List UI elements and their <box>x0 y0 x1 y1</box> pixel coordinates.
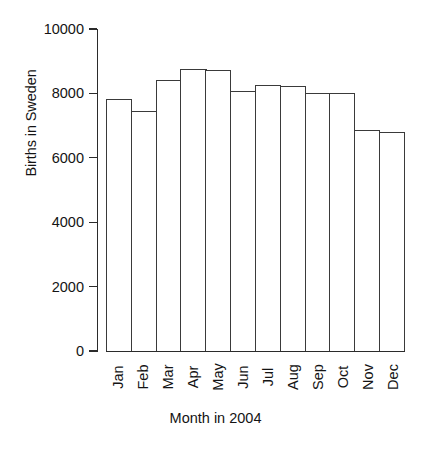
x-axis-tick-label: Jan <box>111 365 126 388</box>
x-axis-tick-cell: Mar <box>156 355 181 403</box>
y-axis-line <box>97 29 98 352</box>
x-axis-tick-cell: Jul <box>256 355 281 403</box>
y-axis-tick-label: 0 <box>24 344 84 359</box>
y-axis-tick-mark <box>89 28 97 29</box>
plot-area <box>106 20 405 352</box>
x-axis-tick-label: Oct <box>336 366 351 389</box>
bar-jun <box>230 91 256 352</box>
x-axis-tick-cell: Nov <box>355 355 380 403</box>
y-axis-tick-label: 6000 <box>24 151 84 166</box>
y-axis-tick-labels: 0200040006000800010000 <box>22 0 84 449</box>
x-axis-tick-label: Jun <box>236 365 251 388</box>
x-axis-title: Month in 2004 <box>0 410 431 426</box>
x-axis-tick-cell: Dec <box>380 355 405 403</box>
bar-oct <box>329 93 355 352</box>
x-axis-tick-label: Feb <box>136 365 151 390</box>
y-axis-tick-mark <box>89 286 97 287</box>
bar-jan <box>106 99 132 352</box>
bars-layer <box>106 21 405 352</box>
x-axis-tick-cell: Aug <box>280 355 305 403</box>
y-axis-tick-mark <box>89 350 97 351</box>
x-axis-tick-cell: Apr <box>181 355 206 403</box>
y-axis-tick-mark <box>89 93 97 94</box>
x-axis-tick-labels: JanFebMarAprMayJunJulAugSepOctNovDec <box>106 355 405 403</box>
bar-apr <box>180 69 206 352</box>
x-axis-tick-label: Mar <box>161 365 176 390</box>
x-axis-tick-label: May <box>211 363 226 390</box>
bar-sep <box>305 93 331 352</box>
bar-chart: Births in Sweden 0200040006000800010000 … <box>0 0 431 449</box>
x-axis-tick-label: Nov <box>360 364 375 390</box>
bar-may <box>205 70 231 352</box>
y-axis-tick-mark <box>89 157 97 158</box>
y-axis-tick-mark <box>89 222 97 223</box>
x-axis-line <box>106 351 405 352</box>
x-axis-tick-label: Aug <box>286 364 301 390</box>
x-axis-tick-cell: Jun <box>231 355 256 403</box>
bar-jul <box>255 85 281 352</box>
bar-feb <box>131 111 157 353</box>
bar-aug <box>280 86 306 352</box>
bar-nov <box>354 130 380 352</box>
y-axis-tick-label: 8000 <box>24 86 84 101</box>
bar-dec <box>379 132 405 352</box>
x-axis-tick-label: Dec <box>385 364 400 390</box>
x-axis-tick-cell: Oct <box>330 355 355 403</box>
bar-mar <box>156 80 182 352</box>
x-axis-tick-cell: Feb <box>131 355 156 403</box>
y-axis-tick-label: 2000 <box>24 280 84 295</box>
x-axis-tick-cell: Sep <box>305 355 330 403</box>
x-axis-tick-label: Apr <box>186 366 201 389</box>
x-axis-tick-label: Sep <box>311 364 326 390</box>
x-axis-tick-cell: May <box>206 355 231 403</box>
y-axis-tick-label: 10000 <box>24 22 84 37</box>
x-axis-tick-cell: Jan <box>106 355 131 403</box>
x-axis-tick-label: Jul <box>261 368 276 387</box>
y-axis-tick-label: 4000 <box>24 215 84 230</box>
